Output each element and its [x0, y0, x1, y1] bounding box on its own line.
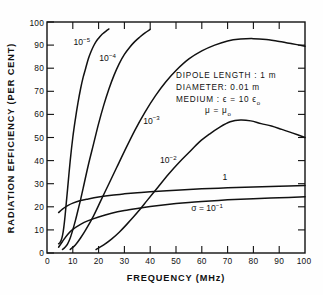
curve-sigma-10-1 [59, 197, 305, 247]
curve-sigma-1 [59, 186, 305, 213]
y-tick-label: 50 [34, 133, 44, 143]
curve-label-sigma-10-3: 10−3 [143, 114, 160, 125]
figure-container: 0 10 20 30 40 50 60 70 80 90 100 0 10 20… [0, 0, 323, 295]
y-tick-label: 90 [34, 40, 44, 50]
y-tick-label: 20 [34, 202, 44, 212]
y-tick-label: 40 [34, 156, 44, 166]
x-tick-label: 10 [68, 256, 78, 266]
y-tick-label: 10 [34, 225, 44, 235]
y-tick-label: 100 [29, 18, 44, 28]
x-tick-label: 90 [274, 256, 284, 266]
annotation-medium-epsilon-subscript: o [257, 99, 261, 106]
y-tick-labels: 0 10 20 30 40 50 60 70 80 90 100 [29, 18, 44, 259]
x-tick-labels: 0 10 20 30 40 50 60 70 80 90 100 [45, 256, 311, 266]
x-tick-label: 0 [45, 256, 50, 266]
radiation-efficiency-chart: 0 10 20 30 40 50 60 70 80 90 100 0 10 20… [0, 0, 323, 295]
curve-label-sigma-10-4: 10−4 [99, 52, 116, 63]
annotation-medium-mu: μ = μo [205, 106, 232, 117]
x-tick-label: 40 [145, 256, 155, 266]
x-tick-label: 80 [249, 256, 259, 266]
annotation-diameter: DIAMETER: 0.01 m [176, 83, 260, 92]
annotation-dipole-length: DIPOLE LENGTH : 1 m [176, 71, 276, 80]
annotation-medium-mu-subscript: o [228, 110, 232, 117]
annotation-medium-epsilon-text: MEDIUM : ϵ = 10 ϵ [176, 95, 257, 104]
curve-label-sigma-10-2: 10−2 [160, 154, 177, 165]
y-tick-label: 0 [39, 248, 44, 258]
curve-label-group: 10−510−410−310−21σ = 10−1 [74, 36, 228, 214]
x-tick-label: 100 [297, 256, 312, 266]
y-axis-ticks [47, 22, 305, 253]
x-tick-label: 30 [120, 256, 130, 266]
x-tick-label: 70 [223, 256, 233, 266]
y-tick-label: 80 [34, 63, 44, 73]
x-tick-label: 20 [94, 256, 104, 266]
curve-label-sigma-1: 1 [223, 172, 228, 182]
annotation-medium-epsilon: MEDIUM : ϵ = 10 ϵo [176, 95, 261, 106]
curve-sigma-10-2 [96, 120, 305, 250]
y-axis-title: RADIATION EFFICIENCY (PER CENT) [6, 43, 16, 233]
y-tick-label: 30 [34, 179, 44, 189]
plot-frame [47, 22, 305, 253]
curve-label-sigma-10-5: 10−5 [74, 36, 91, 47]
curve-group [59, 29, 305, 250]
x-tick-label: 50 [171, 256, 181, 266]
annotation-block: DIPOLE LENGTH : 1 m DIAMETER: 0.01 m MED… [176, 71, 276, 117]
curve-label-sigma-10-1: σ = 10−1 [191, 202, 223, 213]
x-tick-label: 60 [197, 256, 207, 266]
annotation-medium-mu-text: μ = μ [205, 106, 228, 115]
y-tick-label: 60 [34, 109, 44, 119]
y-tick-label: 70 [34, 86, 44, 96]
x-axis-title: FREQUENCY (MHz) [127, 273, 226, 283]
